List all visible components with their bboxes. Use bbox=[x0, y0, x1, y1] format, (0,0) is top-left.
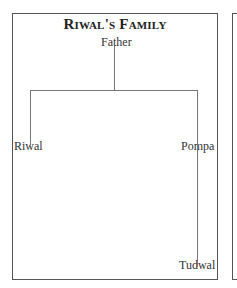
diagram-title: Riwal's Family bbox=[12, 16, 218, 33]
edge-to-pompa-and-tudwal bbox=[197, 90, 198, 267]
edge-to-riwal bbox=[30, 90, 31, 145]
edge-father-down bbox=[114, 46, 115, 90]
adjacent-panel-edge bbox=[232, 13, 237, 280]
node-father: Father bbox=[101, 36, 132, 49]
node-riwal: Riwal bbox=[14, 140, 43, 153]
edge-sibling-bar bbox=[30, 90, 198, 91]
